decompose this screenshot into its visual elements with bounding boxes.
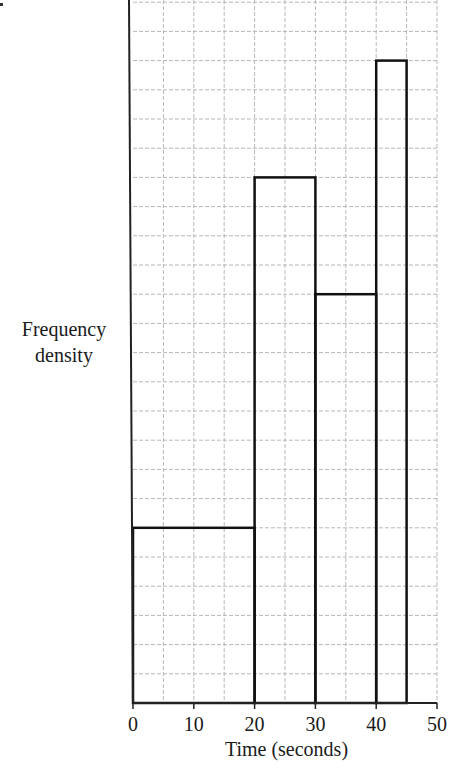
x-tick-label: 20 [245, 713, 265, 735]
histogram-chart: 01020304050 [0, 0, 467, 772]
x-tick-label: 10 [184, 713, 204, 735]
x-tick-label: 40 [366, 713, 386, 735]
x-axis-label: Time (seconds) [136, 738, 437, 761]
y-axis-line [129, 0, 133, 703]
y-axis-label-line2: density [0, 342, 128, 368]
histogram-bars [133, 61, 407, 703]
grid-lines [133, 0, 437, 703]
x-tick-label: 50 [427, 713, 447, 735]
y-axis-label: Frequency density [0, 316, 128, 368]
x-axis-ticks: 01020304050 [128, 703, 447, 735]
x-tick-label: 0 [128, 713, 138, 735]
x-tick-label: 30 [305, 713, 325, 735]
y-axis-label-line1: Frequency [0, 316, 128, 342]
axes [129, 0, 437, 703]
